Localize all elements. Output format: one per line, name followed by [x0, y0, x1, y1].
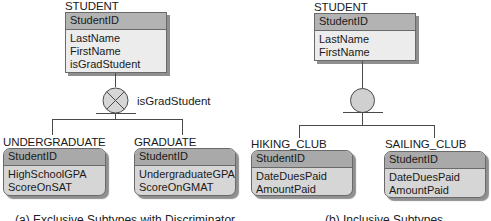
entity-graduate: StudentID UndergraduateGPA ScoreOnGMAT — [134, 148, 236, 196]
caption-b: (b) Inclusive Subtypes — [325, 213, 443, 221]
exclusive-subtype-icon — [101, 87, 130, 116]
entity-hiking-club: StudentID DateDuesPaid AmountPaid — [251, 150, 353, 196]
discriminator-label: isGradStudent — [137, 95, 211, 107]
attribute: AmountPaid — [256, 183, 348, 196]
entity-student-a: StudentID LastName FirstName isGradStude… — [65, 12, 167, 73]
key-attribute: StudentID — [315, 14, 415, 31]
attribute: DateDuesPaid — [389, 171, 481, 184]
key-attribute: StudentID — [252, 151, 352, 168]
key-attribute: StudentID — [4, 149, 105, 166]
connector-line — [299, 125, 300, 138]
attribute: LastName — [70, 32, 162, 45]
attribute: ScoreOnSAT — [8, 181, 101, 194]
attribute: isGradStudent — [70, 58, 162, 71]
entity-name-sailing-club: SAILING_CLUB — [385, 138, 466, 150]
key-attribute: StudentID — [135, 149, 235, 166]
entity-sailing-club: StudentID DateDuesPaid AmountPaid — [384, 151, 486, 198]
attribute: ScoreOnGMAT — [139, 181, 231, 194]
connector-line — [299, 125, 435, 126]
entity-name-undergraduate: UNDERGRADUATE — [3, 136, 106, 148]
entity-student-b: StudentID LastName FirstName — [314, 13, 416, 61]
entity-name-student-a: STUDENT — [65, 0, 119, 12]
key-attribute: StudentID — [385, 152, 485, 169]
connector-line — [434, 125, 435, 138]
caption-a: (a) Exclusive Subtypes with Discriminato… — [15, 213, 235, 221]
connector-line — [362, 61, 363, 89]
subtype-bar — [96, 113, 136, 114]
connector-line — [52, 119, 183, 120]
connector-line — [115, 73, 116, 87]
attribute: LastName — [319, 33, 411, 46]
attribute: HighSchoolGPA — [8, 168, 101, 181]
attribute: AmountPaid — [389, 184, 481, 197]
attribute: FirstName — [319, 46, 411, 59]
entity-name-student-b: STUDENT — [314, 1, 368, 13]
inclusive-subtype-icon — [349, 88, 376, 114]
connector-line — [182, 119, 183, 135]
connector-line — [362, 112, 363, 125]
subtype-bar — [343, 112, 383, 113]
attribute: UndergraduateGPA — [139, 168, 231, 181]
connector-line — [52, 119, 53, 135]
entity-name-graduate: GRADUATE — [134, 136, 196, 148]
entity-undergraduate: StudentID HighSchoolGPA ScoreOnSAT — [3, 148, 106, 196]
entity-name-hiking-club: HIKING_CLUB — [251, 138, 327, 150]
attribute: FirstName — [70, 45, 162, 58]
attribute: DateDuesPaid — [256, 170, 348, 183]
key-attribute: StudentID — [66, 13, 166, 30]
